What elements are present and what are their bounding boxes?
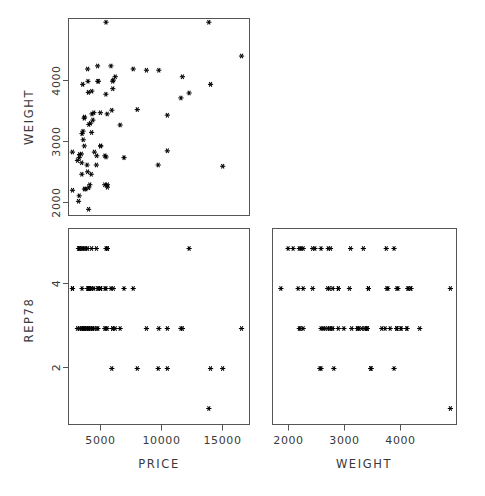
price-x-ticks (101, 425, 223, 431)
data-point-marker (187, 246, 192, 251)
data-point-marker (391, 366, 396, 371)
data-point-marker (206, 406, 211, 411)
data-point-marker (79, 172, 84, 177)
data-point-marker (165, 149, 170, 154)
tick-label-weight-4000: 4000 (50, 65, 63, 95)
tick-label-weight-x-3000: 3000 (329, 434, 359, 447)
panel-frame-weight-price (69, 19, 250, 216)
data-point-marker (310, 286, 315, 291)
data-point-marker (330, 326, 335, 331)
axis-title-rep78-left: REP78 (22, 298, 36, 343)
data-point-marker (206, 20, 211, 25)
data-points-rep78-price (70, 246, 244, 411)
data-point-marker (86, 207, 91, 212)
data-point-marker (82, 144, 87, 149)
data-point-marker (156, 163, 161, 168)
data-point-marker (388, 326, 393, 331)
data-point-marker (156, 366, 161, 371)
data-point-marker (325, 286, 330, 291)
data-point-marker (89, 130, 94, 135)
data-point-marker (98, 110, 103, 115)
data-point-marker (103, 92, 108, 97)
data-point-marker (379, 326, 384, 331)
tick-label-weight-x-4000: 4000 (385, 434, 415, 447)
data-point-marker (348, 246, 353, 251)
data-point-marker (220, 366, 225, 371)
data-point-marker (70, 286, 75, 291)
data-point-marker (187, 91, 192, 96)
data-point-marker (109, 108, 114, 113)
tick-label-rep78-2: 2 (50, 364, 63, 372)
data-point-marker (131, 67, 136, 72)
data-point-marker (81, 138, 86, 143)
data-point-marker (286, 246, 291, 251)
data-point-marker (94, 154, 99, 159)
data-point-marker (85, 79, 90, 84)
data-point-marker (79, 286, 84, 291)
panel-rep78-vs-price: 4 2 REP78 5000 10000 15000 PRICE (22, 229, 250, 472)
data-point-marker (208, 366, 213, 371)
data-point-marker (394, 326, 399, 331)
data-point-marker (165, 326, 170, 331)
data-point-marker (105, 112, 110, 117)
data-point-marker (178, 96, 183, 101)
data-point-marker (113, 74, 118, 79)
data-point-marker (404, 326, 409, 331)
rep78-y-ticks (63, 284, 69, 368)
data-point-marker (118, 123, 123, 128)
data-point-marker (318, 326, 323, 331)
data-point-marker (85, 163, 90, 168)
data-points-rep78-weight (278, 246, 453, 411)
data-point-marker (77, 194, 82, 199)
panel-rep78-vs-weight: 2000 3000 4000 WEIGHT (273, 229, 457, 472)
data-point-marker (85, 67, 90, 72)
data-point-marker (85, 170, 90, 175)
data-point-marker (94, 163, 99, 168)
data-point-marker (75, 158, 80, 163)
data-point-marker (110, 86, 115, 91)
data-point-marker (391, 246, 396, 251)
data-point-marker (92, 150, 97, 155)
data-point-marker (336, 286, 341, 291)
tick-label-rep78-4: 4 (50, 280, 63, 288)
data-point-marker (70, 188, 75, 193)
data-point-marker (239, 54, 244, 59)
data-point-marker (331, 366, 336, 371)
tick-label-price-5000: 5000 (85, 434, 115, 447)
data-point-marker (108, 64, 113, 69)
data-point-marker (70, 150, 75, 155)
scatterplot-matrix: 4000 3000 2000 WEIGHT 4 2 REP78 5000 100… (0, 0, 485, 496)
data-point-marker (448, 286, 453, 291)
data-point-marker (76, 199, 81, 204)
data-point-marker (121, 155, 126, 160)
data-point-marker (156, 326, 161, 331)
data-point-marker (135, 366, 140, 371)
data-point-marker (79, 161, 84, 166)
data-points-weight-price (70, 20, 244, 212)
tick-label-price-15000: 15000 (204, 434, 242, 447)
tick-label-weight-3000: 3000 (50, 126, 63, 156)
axis-title-price-bottom: PRICE (138, 457, 180, 471)
tick-label-weight-2000: 2000 (50, 187, 63, 217)
data-point-marker (336, 326, 341, 331)
tick-label-price-10000: 10000 (143, 434, 181, 447)
data-point-marker (98, 144, 103, 149)
data-point-marker (131, 286, 136, 291)
data-point-marker (384, 246, 389, 251)
data-point-marker (417, 326, 422, 331)
data-point-marker (144, 68, 149, 73)
data-point-marker (165, 366, 170, 371)
data-point-marker (220, 164, 225, 169)
data-point-marker (448, 406, 453, 411)
weight-y-ticks (63, 81, 69, 203)
axis-title-weight-bottom: WEIGHT (336, 457, 392, 471)
data-point-marker (144, 326, 149, 331)
tick-label-weight-x-2000: 2000 (273, 434, 303, 447)
data-point-marker (291, 246, 296, 251)
data-point-marker (135, 107, 140, 112)
data-point-marker (180, 74, 185, 79)
data-point-marker (366, 286, 371, 291)
data-point-marker (239, 326, 244, 331)
data-point-marker (341, 326, 346, 331)
data-point-marker (80, 82, 85, 87)
